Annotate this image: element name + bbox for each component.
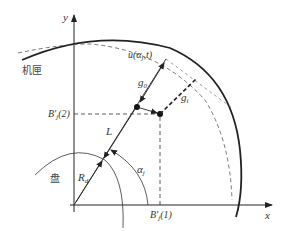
b1-label: B′j(1) [150,210,172,222]
alpha-label: αj [137,164,145,177]
b2-label: B′j(2) [48,109,70,121]
L-label: L [106,126,112,137]
displacement-label: u(αj,t) [128,50,152,62]
casing-label: 机匣 [22,66,42,76]
g0-label: g0 [138,77,147,90]
x-axis-label: x [265,210,270,221]
gi-label: gi [181,92,188,105]
Rd-label: Rd [78,172,88,185]
gi-line [160,79,196,114]
y-axis-label: y [63,12,68,23]
rotor-casing-diagram: y x 机匣 盘 u(αj,t) g0 gi L Rd αj B′j(2) B′… [0,0,286,231]
disk-arc [35,153,123,228]
casing-arc [22,40,241,217]
diagram-graphics [0,0,286,231]
disk-label: 盘 [50,174,60,184]
